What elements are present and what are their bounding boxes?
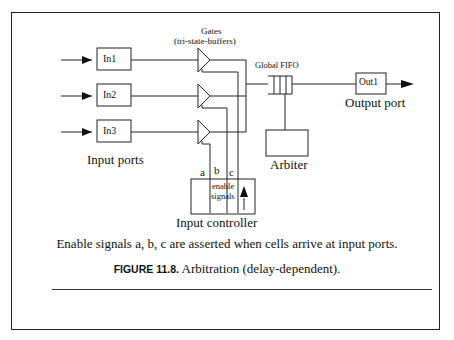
caption-rule [52,289,432,290]
signal-c-label: c [229,166,234,178]
arbiter-label: Arbiter [270,157,308,173]
gates-sublabel: (tri-state-buffers) [174,36,236,46]
figure-title: Arbitration (delay-dependent). [182,261,341,276]
output-port-label: Output port [345,95,405,111]
gates-label: Gates [201,26,222,36]
input-controller-label: Input controller [176,215,257,231]
description-text: Enable signals a, b, c are asserted when… [0,236,454,252]
enable-label: enable [212,181,234,191]
gate-2 [198,84,210,108]
figure-caption: FIGURE 11.8. Arbitration (delay-dependen… [0,261,454,277]
gate-3 [198,120,210,144]
output-port-box-label: Out1 [359,77,378,87]
figure-number: FIGURE 11.8. [114,263,179,275]
gate-1 [198,48,210,72]
input-ports-label: Input ports [87,152,144,168]
signal-a-label: a [200,166,205,178]
global-fifo-label: Global FIFO [255,60,299,70]
output-arrowhead [401,80,414,88]
enable-arrow-up [240,186,248,197]
input-port-1-label: In1 [103,53,116,64]
input-port-2-label: In2 [103,89,116,100]
signal-b-label: b [214,164,220,176]
input-port-3-label: In3 [103,125,116,136]
signals-label: signals [211,191,235,201]
arbiter-box [266,130,308,156]
